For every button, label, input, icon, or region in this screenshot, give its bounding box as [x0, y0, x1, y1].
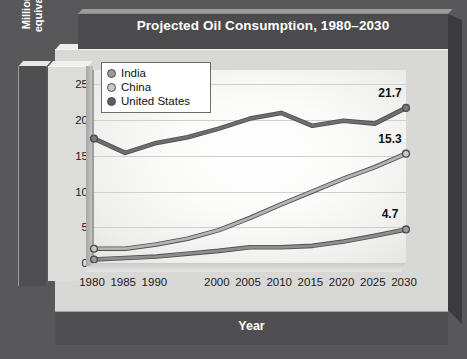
y-tick-label: 10	[52, 186, 88, 198]
chart-right-3d-face	[448, 14, 462, 324]
x-tick-label: 2010	[266, 276, 292, 288]
y-tick-label: 15	[52, 150, 88, 162]
legend-swatch-icon-china	[107, 83, 116, 92]
y-axis-title: Million barrels oil equivalent per day	[18, 0, 46, 94]
series-marker	[403, 226, 410, 233]
plot-floor	[86, 263, 406, 272]
x-axis-tick-labels: 1980198519902000200520102015202020252030	[92, 276, 410, 292]
series-marker	[91, 135, 98, 142]
y-tick-panel: 0510152025	[48, 66, 88, 281]
y-tick-label: 20	[52, 114, 88, 126]
legend-swatch-icon-united-states	[107, 97, 116, 106]
y-tick-label: 5	[52, 221, 88, 233]
legend-label-india: India	[121, 67, 146, 79]
x-tick-label: 1990	[142, 276, 168, 288]
x-tick-label: 2005	[235, 276, 261, 288]
y-axis-title-banner	[18, 66, 46, 286]
legend-label-china: China	[121, 81, 151, 93]
x-tick-label: 1980	[79, 276, 105, 288]
y-tick-label: 0	[52, 257, 88, 269]
y-tick-label: 25	[52, 78, 88, 90]
legend-item-united-states: United States	[107, 94, 205, 108]
x-tick-label: 2020	[329, 276, 355, 288]
series-marker	[403, 150, 410, 157]
series-end-value-label: 4.7	[382, 207, 399, 221]
legend-label-united-states: United States	[121, 95, 190, 107]
x-tick-label: 2025	[360, 276, 386, 288]
series-line-outline	[94, 154, 406, 249]
legend-item-china: China	[107, 80, 205, 94]
x-tick-label: 2015	[298, 276, 324, 288]
series-marker	[91, 256, 98, 263]
series-marker	[91, 245, 98, 252]
series-line-outline	[94, 108, 406, 153]
legend: India China United States	[101, 62, 211, 113]
x-tick-label: 1985	[110, 276, 136, 288]
chart-figure: Projected Oil Consumption, 1980–2030 Mil…	[0, 0, 467, 359]
series-end-value-label: 21.7	[378, 86, 401, 100]
x-axis-title: Year	[55, 319, 448, 333]
legend-swatch-icon-india	[107, 69, 116, 78]
series-marker	[403, 104, 410, 111]
chart-title: Projected Oil Consumption, 1980–2030	[78, 18, 448, 33]
series-end-value-label: 15.3	[378, 132, 401, 146]
legend-item-india: India	[107, 66, 205, 80]
x-tick-label: 2000	[204, 276, 230, 288]
series-line	[94, 154, 406, 249]
x-tick-label: 2030	[391, 276, 417, 288]
